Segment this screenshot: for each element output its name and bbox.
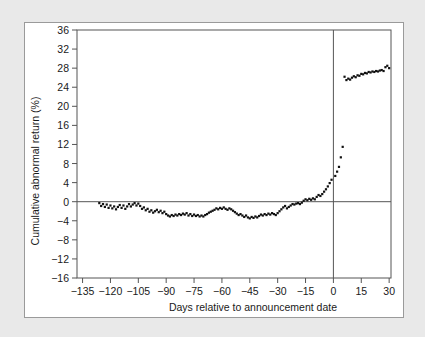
data-point xyxy=(139,205,141,207)
y-tick-label: −12 xyxy=(51,253,69,265)
cumulative-abnormal-return-chart: −135−120−105−90−75−60−45−30−1501530 −16−… xyxy=(25,23,405,319)
data-point xyxy=(245,214,247,216)
data-point xyxy=(278,210,280,212)
x-tick-label: 15 xyxy=(355,285,367,297)
y-tick-label: 28 xyxy=(57,62,69,74)
data-point xyxy=(113,205,115,207)
data-point xyxy=(284,205,286,207)
data-point xyxy=(98,202,100,204)
y-tick-label: 8 xyxy=(63,158,69,170)
data-point xyxy=(143,206,145,208)
data-point xyxy=(107,207,109,209)
data-point xyxy=(338,166,340,168)
data-point xyxy=(277,212,279,214)
data-point xyxy=(104,206,106,208)
data-point xyxy=(336,171,338,173)
data-point xyxy=(137,203,139,205)
x-tick-label: −135 xyxy=(71,285,95,297)
y-axis-title: Cumulative abnormal return (%) xyxy=(29,97,41,246)
data-point xyxy=(280,208,282,210)
data-point xyxy=(319,195,321,197)
data-point xyxy=(316,196,318,198)
data-point xyxy=(128,203,130,205)
data-point xyxy=(147,208,149,210)
y-tick-label: 36 xyxy=(57,24,69,36)
data-point xyxy=(134,202,136,204)
x-tick-label: −30 xyxy=(269,285,287,297)
data-point xyxy=(117,206,119,208)
data-point xyxy=(325,188,327,190)
y-tick-label: 24 xyxy=(57,81,69,93)
data-point xyxy=(382,70,384,72)
x-tick-label: −90 xyxy=(157,285,175,297)
data-point xyxy=(106,203,108,205)
x-tick-label: −105 xyxy=(126,285,150,297)
data-point xyxy=(135,204,137,206)
data-point xyxy=(342,146,344,148)
data-point xyxy=(321,193,323,195)
x-tick-label: −120 xyxy=(99,285,123,297)
data-points xyxy=(98,65,390,220)
data-point xyxy=(156,209,158,211)
data-point xyxy=(120,207,122,209)
data-point xyxy=(301,202,303,204)
data-point xyxy=(102,203,104,205)
data-point xyxy=(327,185,329,187)
y-tick-label: 20 xyxy=(57,100,69,112)
x-tick-label: −15 xyxy=(297,285,315,297)
data-point xyxy=(160,210,162,212)
y-tick-label: −16 xyxy=(51,272,69,284)
y-tick-label: −4 xyxy=(57,215,69,227)
data-point xyxy=(109,204,111,206)
data-point xyxy=(314,198,316,200)
data-point xyxy=(124,208,126,210)
y-tick-label: 16 xyxy=(57,119,69,131)
data-point xyxy=(340,156,342,158)
y-tick-label: 0 xyxy=(63,196,69,208)
figure-card: −135−120−105−90−75−60−45−30−1501530 −16−… xyxy=(24,22,404,318)
reference-lines xyxy=(77,30,391,278)
y-tick-label: 12 xyxy=(57,138,69,150)
data-point xyxy=(163,211,165,213)
plot-frame xyxy=(77,30,391,278)
x-axis-title: Days relative to announcement date xyxy=(169,301,337,313)
data-point xyxy=(186,212,188,214)
data-point xyxy=(334,175,336,177)
y-tick-label: −8 xyxy=(57,234,69,246)
y-axis-ticks: −16−12−8−404812162024283236 xyxy=(51,24,77,284)
data-point xyxy=(349,79,351,81)
x-tick-label: 30 xyxy=(383,285,395,297)
data-point xyxy=(329,182,331,184)
data-point xyxy=(130,205,132,207)
plot-border xyxy=(77,30,391,278)
data-point xyxy=(355,76,357,78)
chart-plot-area: −135−120−105−90−75−60−45−30−1501530 −16−… xyxy=(25,23,405,319)
data-point xyxy=(100,205,102,207)
data-point xyxy=(323,191,325,193)
y-tick-label: 32 xyxy=(57,43,69,55)
x-tick-label: −45 xyxy=(241,285,259,297)
data-point xyxy=(189,213,191,215)
x-axis-ticks: −135−120−105−90−75−60−45−30−1501530 xyxy=(71,278,395,297)
x-tick-label: −75 xyxy=(185,285,203,297)
y-tick-label: 4 xyxy=(63,177,69,189)
x-tick-label: −60 xyxy=(213,285,231,297)
data-point xyxy=(330,179,332,181)
data-point xyxy=(126,205,128,207)
data-point xyxy=(343,76,345,78)
data-point xyxy=(150,209,152,211)
data-point xyxy=(275,214,277,216)
x-tick-label: 0 xyxy=(330,285,336,297)
data-point xyxy=(111,207,113,209)
data-point xyxy=(388,67,390,69)
data-point xyxy=(386,65,388,67)
data-point xyxy=(358,75,360,77)
data-point xyxy=(119,204,121,206)
data-point xyxy=(122,204,124,206)
data-point xyxy=(115,208,117,210)
